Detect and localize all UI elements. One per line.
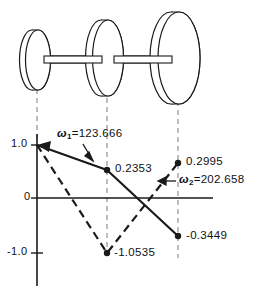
omega-1-leader: [83, 144, 93, 161]
point-label-mode1-station2: 0.2353: [115, 163, 152, 175]
point-label-mode2-station2: -1.0535: [114, 247, 155, 259]
omega-2-leader-arrowhead: [158, 177, 166, 185]
omega-2-value: =202.658: [194, 173, 245, 185]
omega-2-symbol: ω: [179, 173, 189, 185]
shaft-overlay-1: [44, 56, 102, 63]
omega-1-symbol: ω: [57, 127, 67, 139]
shaft-overlay-2: [114, 56, 172, 63]
point-label-mode2-station3: 0.2995: [186, 156, 223, 168]
tick-label-y-neg1: -1.0: [7, 246, 28, 257]
omega-2-label: ω2=202.658: [179, 174, 244, 187]
omega-1-label: ω1=123.666: [57, 128, 122, 141]
mode-1-point-station-3: [175, 233, 181, 239]
omega-1-value: =123.666: [72, 127, 123, 139]
omega-1-leader-arrowhead: [85, 152, 93, 161]
mode-2-point-station-2: [104, 250, 110, 256]
mode-2-curve: [37, 145, 181, 256]
mode-1-curve: [37, 145, 181, 239]
tick-label-y-1: 1.0: [11, 138, 28, 149]
point-label-mode1-station3: -0.3449: [186, 230, 227, 242]
three-disk-rotor: [20, 12, 201, 104]
mode-1-point-station-2: [104, 167, 110, 173]
figure-mode-shapes: 1.0 0 -1.0 ω1=123.666 ω2=202.658 0.2353 …: [0, 0, 269, 297]
mode-2-point-station-3: [175, 160, 181, 166]
tick-label-y-0: 0: [24, 191, 31, 202]
